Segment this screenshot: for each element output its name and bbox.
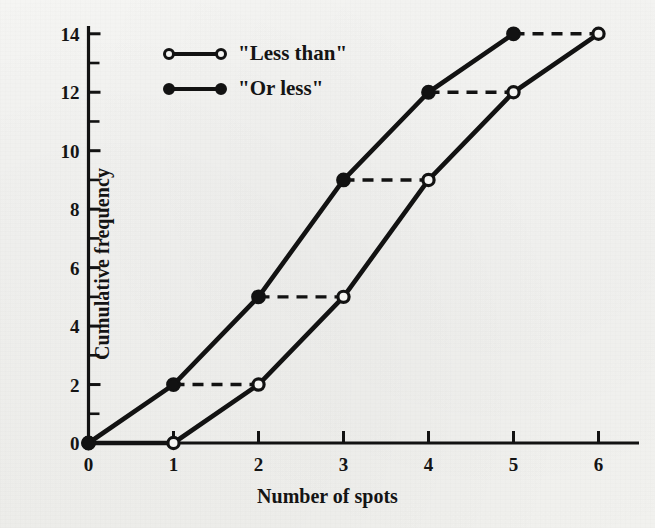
chart-legend: "Less than" "Or less" — [164, 36, 347, 106]
y-tick-label-12: 12 — [40, 83, 80, 102]
legend-item-less-than: "Less than" — [164, 36, 347, 71]
y-tick-label-10: 10 — [40, 141, 80, 160]
open-circle-marker-icon — [164, 46, 226, 62]
legend-label-less-than: "Less than" — [238, 41, 347, 66]
legend-item-or-less: "Or less" — [164, 71, 347, 106]
x-tick-label-0: 0 — [84, 455, 94, 474]
x-tick-label-2: 2 — [254, 455, 264, 474]
x-tick-label-3: 3 — [339, 455, 349, 474]
x-tick-label-6: 6 — [594, 455, 604, 474]
cumulative-frequency-figure: 02468101214 0123456 Cumulative frequency… — [0, 0, 655, 528]
legend-label-or-less: "Or less" — [238, 76, 323, 101]
x-tick-label-4: 4 — [424, 455, 434, 474]
x-tick-label-5: 5 — [509, 455, 519, 474]
x-axis-title: Number of spots — [0, 485, 655, 508]
y-tick-label-0: 0 — [40, 434, 80, 453]
y-tick-label-2: 2 — [40, 375, 80, 394]
y-tick-label-14: 14 — [40, 24, 80, 43]
y-tick-label-6: 6 — [40, 258, 80, 277]
y-axis-title: Cumulative frequency — [91, 168, 114, 360]
y-tick-label-4: 4 — [40, 317, 80, 336]
x-tick-label-1: 1 — [169, 455, 179, 474]
filled-circle-marker-icon — [164, 81, 226, 97]
y-tick-label-8: 8 — [40, 200, 80, 219]
